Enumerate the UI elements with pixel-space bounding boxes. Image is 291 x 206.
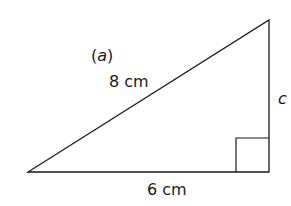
triangle-diagram [0, 0, 291, 206]
part-label: (a) [91, 48, 113, 64]
base-label: 6 cm [147, 182, 187, 198]
right-angle-marker [236, 138, 269, 172]
side-c-label: c [278, 91, 287, 107]
part-letter: a [97, 46, 107, 65]
right-triangle [28, 20, 269, 172]
hypotenuse-label: 8 cm [109, 74, 149, 90]
